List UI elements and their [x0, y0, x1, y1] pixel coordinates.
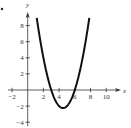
- axes: [8, 12, 121, 126]
- x-tick-label: 4: [57, 93, 61, 101]
- x-tick-label: 2: [42, 93, 46, 101]
- y-tick-label: −2: [16, 103, 24, 111]
- bullet-dot: [1, 8, 3, 10]
- ticks: [12, 26, 106, 123]
- y-tick-label: 6: [20, 38, 24, 46]
- x-axis-label: x: [122, 87, 127, 95]
- x-tick-label: 10: [103, 93, 111, 101]
- x-tick-label: 8: [89, 93, 93, 101]
- tick-labels: −2246810−4−22468: [8, 22, 110, 127]
- y-axis-label: y: [25, 1, 30, 9]
- y-tick-label: 8: [20, 22, 24, 30]
- y-tick-label: −4: [16, 119, 24, 127]
- x-tick-label: −2: [8, 93, 16, 101]
- y-tick-label: 2: [20, 70, 24, 78]
- y-tick-label: 4: [20, 54, 24, 62]
- parabola-graph: −2246810−4−22468 x y: [0, 0, 131, 128]
